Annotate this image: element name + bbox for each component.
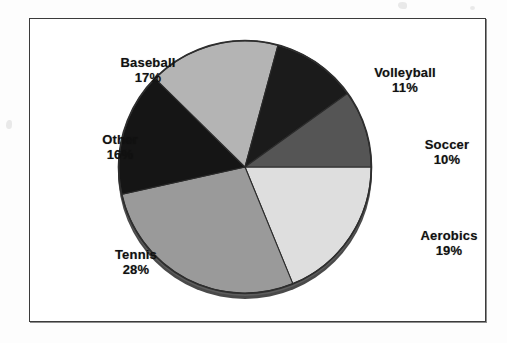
pie-label-volleyball-name: Volleyball	[374, 65, 436, 80]
pie-label-other: Other 16%	[80, 132, 160, 162]
pie-label-volleyball: Volleyball 11%	[350, 65, 460, 95]
pie-label-aerobics-percent: 19%	[397, 243, 501, 258]
scan-speckle	[6, 120, 12, 129]
pie-label-aerobics: Aerobics 19%	[397, 228, 501, 258]
pie-label-volleyball-percent: 11%	[350, 80, 460, 95]
pie-label-soccer-percent: 10%	[401, 152, 493, 167]
pie-label-aerobics-name: Aerobics	[420, 228, 477, 243]
pie-label-tennis: Tennis 28%	[90, 247, 182, 277]
pie-label-tennis-name: Tennis	[115, 247, 157, 262]
pie-label-baseball: Baseball 17%	[96, 55, 200, 85]
scan-speckle	[470, 6, 475, 10]
pie-label-soccer: Soccer 10%	[401, 137, 493, 167]
page-background: Baseball 17% Volleyball 11% Soccer 10% A…	[0, 0, 507, 343]
scan-speckle	[398, 2, 407, 9]
pie-label-tennis-percent: 28%	[90, 262, 182, 277]
chart-frame: Baseball 17% Volleyball 11% Soccer 10% A…	[29, 18, 486, 322]
pie-label-baseball-name: Baseball	[120, 55, 175, 70]
pie-label-other-percent: 16%	[80, 147, 160, 162]
pie-label-soccer-name: Soccer	[425, 137, 470, 152]
pie-label-baseball-percent: 17%	[96, 70, 200, 85]
pie-label-other-name: Other	[102, 132, 138, 147]
pie-chart: Baseball 17% Volleyball 11% Soccer 10% A…	[30, 19, 487, 323]
